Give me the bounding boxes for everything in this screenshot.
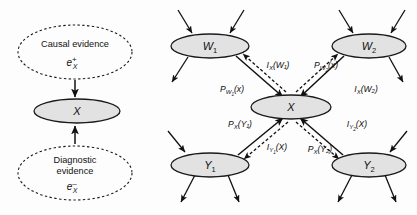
node-x-letter: X [286, 101, 295, 113]
msg-pi-w1-arg: (x) [234, 84, 244, 94]
msg-lambda-y2-x-arg: (X) [356, 119, 368, 129]
msg-lambda-y2-x: IY2(X) [347, 119, 368, 132]
bayesian-network-figure: Causal evidence e+X X Diagnostic evidenc… [0, 0, 417, 215]
diagnostic-evidence-label-line1: Diagnostic [54, 155, 97, 165]
msg-lambda-x-w2-arg: (W₂) [361, 84, 378, 94]
msg-pi-w1: PW1(x) [220, 84, 244, 97]
arrow-external-in-w2-right [391, 10, 405, 33]
arrow-external-in-w1-right [230, 10, 244, 33]
causal-evidence-symbol: e+X [67, 55, 78, 70]
msg-pi-w2: PW2(x) [314, 60, 338, 73]
causal-evidence-label: Causal evidence [41, 39, 109, 49]
msg-lambda-x-w2: IX(W₂) [354, 84, 378, 95]
diagnostic-evidence-symbol: e–X [67, 179, 78, 194]
left-panel: Causal evidence e+X X Diagnostic evidenc… [18, 25, 132, 200]
arrow-external-out-y1-right [228, 175, 239, 202]
msg-pi-x-y2: PX(Y₂) [308, 144, 333, 155]
msg-pi-x-y1-arg: (Y₁) [238, 119, 252, 129]
msg-lambda-y1-x-arg: (X) [276, 142, 288, 152]
msg-pi-w2-arg: (x) [328, 60, 338, 70]
arrow-external-out-w2 [389, 57, 403, 82]
arrow-external-in-y1 [168, 131, 185, 152]
arrow-external-in-w1-left [178, 10, 192, 33]
left-x-node-label: X [72, 105, 81, 117]
msg-pi-x-y2-arg: (Y₂) [318, 144, 333, 154]
node-w2-subscript: 2 [372, 46, 376, 55]
diagnostic-e-subscript: X [72, 187, 78, 194]
causal-evidence-ellipse [18, 25, 132, 79]
msg-pi-x-y1: PX(Y₁) [228, 119, 252, 130]
diagram-canvas: Causal evidence e+X X Diagnostic evidenc… [0, 0, 417, 215]
node-y2-subscript: 2 [371, 165, 375, 174]
arrow-external-out-y2-left [338, 175, 352, 202]
diagnostic-evidence-label-line2: evidence [57, 166, 94, 176]
arrow-external-in-w2-left [339, 10, 353, 33]
arrow-external-out-w1 [172, 57, 188, 82]
node-y1-subscript: 1 [212, 165, 216, 174]
node-x-label: X [286, 101, 295, 113]
arrow-external-in-y2 [390, 131, 407, 152]
node-w1-subscript: 1 [213, 46, 217, 55]
right-panel: W1 W2 X Y1 Y2 PW1(x) IX(W₁) [168, 10, 407, 202]
causal-e-subscript: X [72, 63, 78, 70]
msg-lambda-y1-x: IY1(X) [267, 142, 288, 155]
msg-lambda-x-w1: IX(W₁) [267, 60, 290, 71]
msg-lambda-x-w1-arg: (W₁) [273, 60, 290, 70]
arrow-external-out-y1-left [181, 175, 195, 202]
arrow-external-out-y2-right [385, 175, 396, 202]
